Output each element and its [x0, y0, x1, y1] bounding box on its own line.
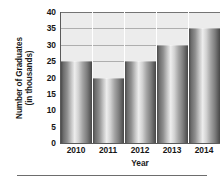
bar-2013 [157, 45, 188, 143]
y-axis-tick-label: 10 [47, 105, 56, 115]
bottom-divider [17, 175, 207, 176]
bar-series [61, 12, 220, 143]
bar-cell [157, 12, 189, 143]
y-axis-tick-label: 40 [47, 7, 56, 17]
y-axis-tick-label: 5 [51, 122, 56, 132]
plot-area [60, 12, 220, 144]
bar-2014 [189, 28, 220, 143]
y-axis-tick-labels: 0510152025303540 [36, 12, 58, 144]
bar-2011 [93, 78, 124, 144]
y-axis-tick-label: 35 [47, 23, 56, 33]
y-axis-title-line-1: Number of Graduates [15, 37, 24, 119]
bar-chart-figure: Number of Graduates (in thousands) 05101… [0, 0, 223, 185]
y-axis-tick-label: 20 [47, 73, 56, 83]
y-axis-tick-label: 0 [51, 138, 56, 148]
x-axis-tick-label: 2011 [92, 145, 124, 155]
bar-cell [125, 12, 157, 143]
bar-cell [189, 12, 220, 143]
bar-cell [93, 12, 125, 143]
x-axis-tick-label: 2014 [188, 145, 220, 155]
x-axis-tick-labels: 20102011201220132014 [60, 145, 220, 155]
x-axis-tick-label: 2012 [124, 145, 156, 155]
x-axis-tick-label: 2010 [60, 145, 92, 155]
y-axis-tick-label: 30 [47, 40, 56, 50]
y-axis-tick-label: 25 [47, 56, 56, 66]
bar-cell [61, 12, 93, 143]
bar-2010 [61, 61, 92, 143]
bar-2012 [125, 61, 156, 143]
x-axis-title: Year [60, 158, 220, 168]
y-axis-title-line-2: (in thousands) [25, 37, 35, 119]
y-axis-tick-label: 15 [47, 89, 56, 99]
x-axis-tick-label: 2013 [156, 145, 188, 155]
